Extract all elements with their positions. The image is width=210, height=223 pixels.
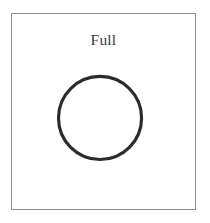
shape-canvas [12,14,195,209]
figure-frame: Full [11,13,196,210]
full-circle-shape [58,76,141,159]
